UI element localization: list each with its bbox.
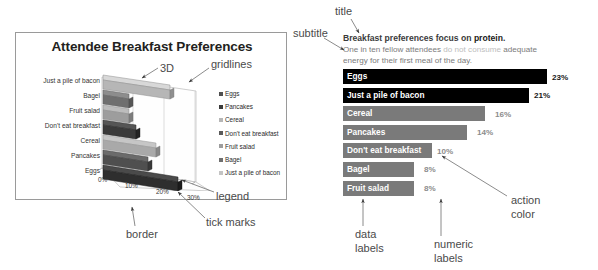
- tick-label: 10%: [125, 182, 138, 189]
- annotation-3d: 3D: [160, 62, 174, 74]
- bar-row: Cereal 16%: [343, 106, 591, 122]
- annotation-numeric-labels-line2: labels: [434, 252, 463, 264]
- bar-row: Don't eat breakfast 10%: [343, 143, 591, 159]
- category-label: Cereal: [22, 137, 100, 145]
- bar-numeric-label: 21%: [534, 90, 550, 101]
- screenshot-stage: Attendee Breakfast Preferences Just a pi…: [0, 0, 598, 270]
- bar-data-label: Don't eat breakfast: [347, 145, 421, 156]
- bar-data-label: Eggs: [347, 71, 367, 82]
- annotation-numeric-labels-line1: numeric: [434, 238, 473, 250]
- bar-data-label: Bagel: [347, 164, 370, 175]
- subtitle-part-dim: do not consume: [443, 45, 501, 54]
- category-label: Pancakes: [22, 152, 100, 160]
- annotation-data-labels-line2: labels: [355, 242, 384, 254]
- category-label: Don't eat breakfast: [22, 122, 100, 130]
- category-label: Just a pile of bacon: [22, 77, 100, 85]
- legend-item: Pancakes: [219, 100, 301, 113]
- bar-numeric-label: 14%: [477, 127, 493, 138]
- bar-row: Just a pile of bacon 21%: [343, 88, 591, 104]
- legend-swatch-icon: [219, 144, 223, 148]
- legend-swatch-icon: [219, 158, 223, 162]
- category-label: Bagel: [22, 92, 100, 100]
- legend-item-label: Bagel: [225, 156, 241, 163]
- legend-item-label: Fruit salad: [225, 143, 255, 150]
- annotation-action-color-line1: action: [511, 194, 540, 206]
- leader-title: [351, 19, 359, 33]
- subtitle-part-1: One in ten fellow attendees: [343, 45, 443, 54]
- left-chart-legend: Eggs Pancakes Cereal Don't eat breakfast…: [219, 87, 301, 179]
- bar-row: Fruit salad 8%: [343, 181, 591, 197]
- legend-item-label: Pancakes: [225, 103, 253, 110]
- annotation-legend: legend: [216, 190, 249, 202]
- bar-numeric-label: 10%: [437, 146, 453, 157]
- right-chart-panel: Breakfast preferences focus on protein. …: [343, 33, 591, 66]
- right-chart-bar-list: Eggs 23% Just a pile of bacon 21% Cereal…: [343, 69, 591, 199]
- legend-item-label: Cereal: [225, 116, 244, 123]
- bar-numeric-label: 8%: [424, 183, 436, 194]
- category-label: Fruit salad: [22, 107, 100, 115]
- legend-swatch-icon: [219, 131, 223, 135]
- annotation-border: border: [126, 228, 158, 240]
- legend-item-label: Eggs: [225, 90, 240, 97]
- left-chart-3d-svg: [100, 69, 210, 191]
- left-chart-title: Attendee Breakfast Preferences: [16, 39, 288, 54]
- legend-swatch-icon: [219, 92, 223, 96]
- legend-item: Eggs: [219, 87, 301, 100]
- bar-data-label: Pancakes: [347, 127, 385, 138]
- legend-item: Fruit salad: [219, 140, 301, 153]
- tick-label: 0%: [98, 176, 107, 183]
- legend-item: Just a pile of bacon: [219, 166, 301, 179]
- bar-numeric-label: 23%: [552, 72, 568, 83]
- tick-label: 30%: [187, 194, 200, 201]
- bar-data-label: Fruit salad: [347, 183, 389, 194]
- right-chart-title: Breakfast preferences focus on protein.: [343, 33, 591, 44]
- annotation-title: title: [335, 5, 352, 17]
- legend-item-label: Just a pile of bacon: [225, 169, 280, 176]
- legend-item: Cereal: [219, 113, 301, 126]
- annotation-gridlines: gridlines: [211, 58, 252, 70]
- tick-label: 20%: [156, 188, 169, 195]
- category-label: Eggs: [22, 167, 100, 175]
- bar-numeric-label: 8%: [424, 164, 436, 175]
- right-chart-title-suffix: .: [503, 33, 505, 43]
- right-chart-title-keyword: protein: [474, 33, 503, 43]
- legend-item: Bagel: [219, 153, 301, 166]
- legend-swatch-icon: [219, 171, 223, 175]
- annotation-tick-marks: tick marks: [206, 216, 256, 228]
- bar-data-label: Just a pile of bacon: [347, 90, 424, 101]
- leader-border: [132, 207, 135, 226]
- legend-swatch-icon: [219, 118, 223, 122]
- bar-data-label: Cereal: [347, 108, 372, 119]
- left-chart-category-axis: Just a pile of bacon Bagel Fruit salad D…: [22, 75, 100, 183]
- annotation-data-labels-line1: data: [355, 228, 376, 240]
- bar-numeric-label: 16%: [495, 109, 511, 120]
- legend-item-label: Don't eat breakfast: [225, 130, 278, 137]
- leader-subtitle: [324, 38, 344, 50]
- bar-row: Bagel 8%: [343, 162, 591, 178]
- bar-row: Eggs 23%: [343, 69, 591, 85]
- annotation-subtitle: subtitle: [293, 27, 328, 39]
- right-chart-subtitle: One in ten fellow attendees do not consu…: [343, 45, 557, 66]
- bar: [343, 69, 547, 84]
- left-chart-plot-area-3d: 0% 10% 20% 30%: [100, 69, 210, 191]
- annotation-action-color-line2: color: [511, 208, 535, 220]
- legend-item: Don't eat breakfast: [219, 127, 301, 140]
- right-chart-title-plain: Breakfast preferences focus on: [343, 33, 474, 43]
- legend-swatch-icon: [219, 105, 223, 109]
- bar-row: Pancakes 14%: [343, 125, 591, 141]
